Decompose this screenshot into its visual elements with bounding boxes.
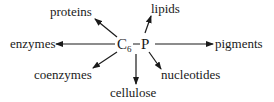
phosphate-symbol: P (141, 36, 149, 52)
label-nucleotides: nucleotides (161, 67, 220, 82)
arrow-to-lipids (145, 16, 151, 33)
label-pigments: pigments (215, 36, 263, 51)
c6-symbol: C6 (117, 36, 132, 54)
label-proteins: proteins (50, 4, 92, 19)
label-coenzymes: coenzymes (34, 67, 92, 82)
center-node: C6 P (117, 36, 149, 54)
arrow-to-coenzymes (93, 52, 117, 68)
label-lipids: lipids (151, 1, 180, 16)
arrow-to-nucleotides (149, 52, 161, 69)
arrow-to-proteins (95, 19, 117, 37)
metabolic-branching-diagram: C6 P proteins lipids enzymes pigments co… (0, 0, 274, 102)
label-cellulose: cellulose (110, 85, 156, 100)
label-enzymes: enzymes (10, 36, 55, 51)
